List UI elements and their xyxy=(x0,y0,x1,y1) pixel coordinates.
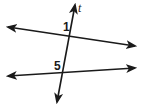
lower-line xyxy=(8,68,135,76)
upper-line xyxy=(8,27,135,46)
diagram-canvas: t 1 5 xyxy=(0,0,143,108)
angle-5-label: 5 xyxy=(54,59,61,73)
transversal-label: t xyxy=(78,1,82,15)
angle-1-label: 1 xyxy=(63,20,70,34)
